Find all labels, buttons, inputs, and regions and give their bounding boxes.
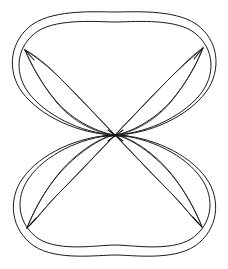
figure-canvas: Symmetric figure-eight curve diagram — [0, 0, 228, 269]
geometric-figure-eight-drawing — [0, 0, 228, 269]
